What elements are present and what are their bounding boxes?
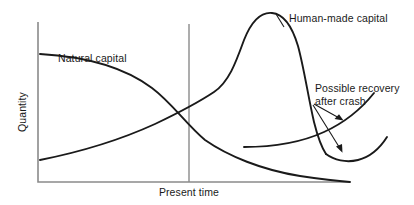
possible-recovery-label-line1: Possible recovery (315, 82, 400, 94)
recovery-lower-arrow-icon (336, 144, 343, 153)
human-made-capital-label: Human-made capital (289, 12, 388, 24)
y-axis-label: Quantity (16, 91, 28, 132)
x-axis-label: Present time (159, 186, 219, 198)
axes-lines (38, 22, 350, 182)
natural-capital-label: Natural capital (58, 52, 127, 64)
recovery-upper-arrow-icon (335, 114, 344, 120)
possible-recovery-label-line2: after crash (315, 95, 366, 107)
capital-over-time-diagram: Quantity Present time Natural capital Hu… (0, 0, 414, 205)
diagram-canvas: Quantity Present time Natural capital Hu… (0, 0, 414, 205)
human-made-capital-curve (40, 13, 326, 160)
